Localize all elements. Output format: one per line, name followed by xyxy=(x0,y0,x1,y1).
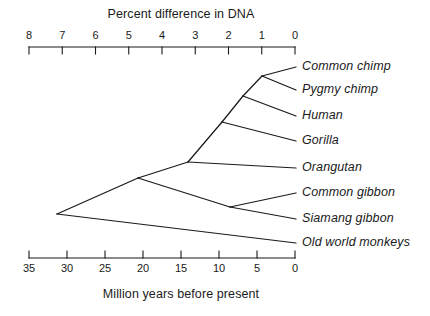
bottom-axis-ticks xyxy=(29,251,295,258)
branch-great-ape-to-gorilla-split xyxy=(188,122,222,162)
branch-gorilla-split-to-gorilla xyxy=(222,122,296,141)
branch-human-chimp-to-chimp-split xyxy=(243,76,262,96)
branch-human-chimp-to-human xyxy=(243,96,296,116)
branch-hominoid-to-gibbon-split xyxy=(138,178,230,207)
top-axis-ticks xyxy=(29,47,295,54)
branch-hominoid-to-great-ape xyxy=(138,162,188,178)
tree-drawing xyxy=(0,0,430,316)
phylogenetic-tree-figure: Percent difference in DNA Million years … xyxy=(0,0,430,316)
branch-great-ape-to-orangutan xyxy=(188,162,296,168)
branch-gorilla-split-to-human-chimp xyxy=(222,96,243,122)
tree-branches xyxy=(57,67,296,243)
branch-chimp-split-to-pygmy-chimp xyxy=(262,76,296,90)
branch-root-to-old-world-monkeys xyxy=(57,214,296,243)
branch-chimp-split-to-common-chimp xyxy=(262,67,296,76)
branch-gibbon-split-to-common-gibbon xyxy=(230,193,296,207)
branch-gibbon-split-to-siamang-gibbon xyxy=(230,207,296,219)
branch-root-to-hominoid xyxy=(57,178,138,214)
